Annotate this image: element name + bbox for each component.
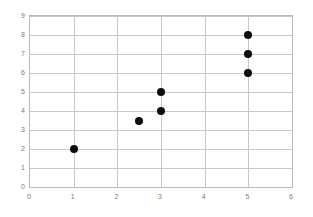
x-axis-tick-label: 2 [104,193,128,200]
x-axis: 0123456 [29,193,293,207]
x-axis-tick-label: 4 [192,193,216,200]
y-axis-tick-label: 8 [3,31,25,38]
x-axis-tick-label: 0 [17,193,41,200]
y-axis-tick-label: 2 [3,145,25,152]
y-axis-tick-label: 0 [3,183,25,190]
gridline-vertical [117,16,118,187]
data-point [244,31,252,39]
x-axis-tick-label: 1 [61,193,85,200]
y-axis: 0123456789 [0,15,25,188]
data-point [157,107,165,115]
y-axis-tick-label: 9 [3,12,25,19]
y-axis-tick-label: 3 [3,126,25,133]
data-point [244,69,252,77]
gridline-vertical [74,16,75,187]
data-point [135,117,143,125]
data-point [157,88,165,96]
gridline-vertical [248,16,249,187]
data-point [70,145,78,153]
scatter-chart: 0123456789 0123456 [0,0,313,217]
gridline-vertical [205,16,206,187]
y-axis-tick-label: 7 [3,50,25,57]
gridline-vertical [161,16,162,187]
x-axis-tick-label: 5 [235,193,259,200]
y-axis-tick-label: 1 [3,164,25,171]
x-axis-tick-label: 3 [148,193,172,200]
y-axis-tick-label: 4 [3,107,25,114]
x-axis-tick-label: 6 [279,193,303,200]
data-point [244,50,252,58]
y-axis-tick-label: 5 [3,88,25,95]
plot-area [29,15,293,188]
y-axis-tick-label: 6 [3,69,25,76]
